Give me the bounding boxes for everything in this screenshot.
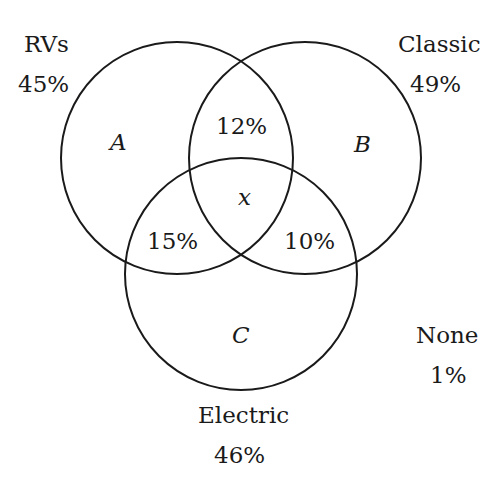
region-a-label: A	[110, 131, 127, 154]
electric-percent: 46%	[214, 444, 265, 467]
region-b-label: B	[354, 133, 371, 156]
classic-electric-value: 10%	[284, 230, 335, 253]
electric-label: Electric	[198, 404, 289, 427]
region-c-label: C	[232, 324, 250, 347]
none-label: None	[416, 324, 478, 347]
none-percent: 1%	[430, 364, 467, 387]
all-three-value: x	[238, 186, 251, 209]
classic-percent: 49%	[410, 73, 461, 96]
rvs-label: RVs	[24, 33, 69, 56]
rvs-electric-value: 15%	[147, 230, 198, 253]
rvs-classic-value: 12%	[216, 115, 267, 138]
classic-label: Classic	[398, 33, 481, 56]
rvs-percent: 45%	[18, 73, 69, 96]
